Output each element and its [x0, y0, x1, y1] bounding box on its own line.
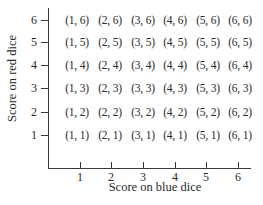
x-axis-line — [48, 168, 251, 169]
y-axis-title: Score on red dice — [6, 24, 19, 134]
y-tick-mark — [41, 135, 48, 136]
outcome-cell: (3, 3) — [127, 82, 159, 94]
outcome-cell: (1, 6) — [61, 14, 93, 26]
outcome-cell: (3, 1) — [127, 129, 159, 141]
y-tick-mark — [41, 112, 48, 113]
outcome-cell: (4, 3) — [159, 82, 191, 94]
outcome-cell: (1, 2) — [61, 106, 93, 118]
outcome-cell: (5, 4) — [192, 59, 224, 71]
outcome-cell: (3, 5) — [127, 36, 159, 48]
outcome-cell: (1, 5) — [61, 36, 93, 48]
outcome-cell: (3, 4) — [127, 59, 159, 71]
outcome-cell: (6, 1) — [224, 129, 256, 141]
x-tick-mark — [80, 162, 81, 168]
y-tick-mark — [41, 65, 48, 66]
x-tick-mark — [143, 162, 144, 168]
y-tick-label: 4 — [25, 59, 37, 71]
outcome-cell: (6, 4) — [224, 59, 256, 71]
outcome-cell: (4, 6) — [159, 14, 191, 26]
outcome-cell: (1, 4) — [61, 59, 93, 71]
y-tick-label: 2 — [25, 106, 37, 118]
outcome-cell: (4, 1) — [159, 129, 191, 141]
outcome-cell: (2, 4) — [94, 59, 126, 71]
outcome-cell: (6, 5) — [224, 36, 256, 48]
y-tick-mark — [41, 88, 48, 89]
outcome-cell: (5, 3) — [192, 82, 224, 94]
outcome-cell: (4, 5) — [159, 36, 191, 48]
outcome-cell: (1, 1) — [61, 129, 93, 141]
outcome-cell: (5, 2) — [192, 106, 224, 118]
y-tick-mark — [41, 20, 48, 21]
y-tick-label: 5 — [25, 36, 37, 48]
y-axis-line — [48, 8, 49, 169]
outcome-cell: (2, 3) — [94, 82, 126, 94]
outcome-cell: (6, 3) — [224, 82, 256, 94]
outcome-cell: (5, 6) — [192, 14, 224, 26]
outcome-cell: (3, 2) — [127, 106, 159, 118]
x-axis-title: Score on blue dice — [60, 181, 250, 194]
y-tick-label: 6 — [25, 14, 37, 26]
x-tick-mark — [206, 162, 207, 168]
x-tick-mark — [238, 162, 239, 168]
outcome-cell: (2, 5) — [94, 36, 126, 48]
outcome-cell: (6, 2) — [224, 106, 256, 118]
outcome-cell: (2, 2) — [94, 106, 126, 118]
outcome-cell: (4, 2) — [159, 106, 191, 118]
outcome-cell: (6, 6) — [224, 14, 256, 26]
outcome-cell: (5, 1) — [192, 129, 224, 141]
y-tick-label: 1 — [25, 129, 37, 141]
outcome-cell: (4, 4) — [159, 59, 191, 71]
outcome-cell: (5, 5) — [192, 36, 224, 48]
x-tick-mark — [111, 162, 112, 168]
y-tick-label: 3 — [25, 82, 37, 94]
dice-outcome-diagram: Score on red dice 654321 123456 (1, 6)(2… — [0, 0, 263, 205]
outcome-cell: (3, 6) — [127, 14, 159, 26]
y-tick-mark — [41, 42, 48, 43]
outcome-cell: (2, 1) — [94, 129, 126, 141]
outcome-cell: (1, 3) — [61, 82, 93, 94]
outcome-cell: (2, 6) — [94, 14, 126, 26]
x-tick-mark — [175, 162, 176, 168]
